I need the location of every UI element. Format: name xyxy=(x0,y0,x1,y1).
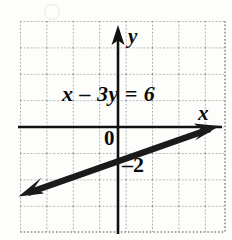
y-intercept-label: –2 xyxy=(122,154,144,176)
graph-figure: x – 3y = 6 y x 0 –2 xyxy=(0,0,232,240)
origin-label: 0 xyxy=(104,128,115,149)
equation-label: x – 3y = 6 xyxy=(62,83,155,105)
y-axis-label: y xyxy=(128,26,137,47)
x-axis-label: x xyxy=(198,103,209,124)
